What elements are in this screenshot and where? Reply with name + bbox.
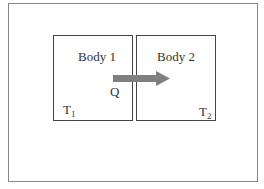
body-1-label: Body 1: [78, 49, 116, 65]
temp-2-label: T2: [199, 104, 211, 121]
body-2-label: Body 2: [157, 49, 195, 65]
heat-flow-arrow-icon: [0, 0, 264, 189]
heat-label: Q: [110, 84, 119, 100]
temp-1-label: T1: [63, 102, 75, 119]
